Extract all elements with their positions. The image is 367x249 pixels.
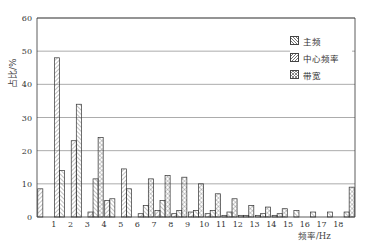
x-tick-label: 8: [168, 220, 173, 229]
bar: [148, 179, 153, 217]
bar: [155, 210, 160, 217]
bar: [177, 210, 182, 217]
y-tick-label: 50: [22, 47, 32, 56]
y-tick-label: 40: [22, 80, 32, 89]
y-tick-label: 30: [22, 114, 32, 123]
bar: [294, 210, 299, 217]
x-tick-label: 11: [216, 220, 226, 229]
bar: [127, 189, 132, 217]
y-axis-label: 占比/%: [6, 58, 19, 88]
x-tick-label: 3: [85, 220, 90, 229]
x-tick-label: 1: [51, 220, 56, 229]
x-tick-label: 13: [249, 220, 259, 229]
bar: [98, 137, 103, 217]
y-tick-label: 10: [22, 180, 32, 189]
x-tick-label: 10: [199, 220, 209, 229]
bar: [327, 212, 332, 217]
x-tick-label: 5: [118, 220, 123, 229]
bar: [199, 184, 204, 217]
bar: [277, 214, 282, 217]
y-tick-label: 20: [22, 147, 32, 156]
y-tick-label: 0: [27, 213, 32, 222]
bar: [88, 212, 93, 217]
bar: [165, 176, 170, 217]
legend-swatch-diag-forward-icon: [290, 36, 299, 45]
legend-label: 带宽: [303, 69, 321, 81]
legend-item-main-freq: 主频: [290, 32, 352, 49]
legend-label: 主频: [303, 35, 321, 47]
bar: [110, 199, 115, 217]
x-tick-label: 2: [68, 220, 73, 229]
x-tick-label: 14: [266, 220, 276, 229]
bar: [38, 189, 43, 217]
legend-label: 中心频率: [303, 52, 339, 64]
bar: [143, 205, 148, 217]
bar: [93, 179, 98, 217]
bar: [344, 212, 349, 217]
x-tick-label: 9: [185, 220, 190, 229]
bar: [232, 199, 237, 217]
bar: [121, 169, 126, 217]
x-tick-label: 17: [316, 220, 326, 229]
x-tick-label: 18: [333, 220, 343, 229]
bar: [138, 214, 143, 217]
bar: [210, 210, 215, 217]
x-axis-label: 频率/Hz: [298, 229, 331, 241]
x-tick-label: 15: [283, 220, 293, 229]
bar: [260, 214, 265, 217]
legend-item-bandwidth: 带宽: [290, 66, 352, 83]
x-tick-label: 16: [300, 220, 310, 229]
bar: [282, 209, 287, 217]
x-tick-label: 4: [101, 220, 106, 229]
bar: [160, 200, 165, 217]
bar: [54, 58, 59, 217]
bar: [71, 141, 76, 217]
bar: [172, 214, 177, 217]
bar: [182, 177, 187, 217]
bar: [215, 194, 220, 217]
x-tick-label: 12: [233, 220, 243, 229]
bar: [193, 210, 198, 217]
bar: [76, 104, 81, 217]
bar: [60, 171, 65, 217]
bar: [188, 212, 193, 217]
legend-swatch-diag-back-icon: [290, 53, 299, 62]
legend: 主频 中心频率 带宽: [290, 32, 352, 83]
bar: [311, 212, 316, 217]
bar: [265, 207, 270, 217]
legend-swatch-cross-hatch-icon: [290, 70, 299, 79]
bar: [205, 214, 210, 217]
y-tick-label: 60: [22, 14, 32, 23]
x-tick-label: 6: [135, 220, 140, 229]
x-tick-label: 7: [152, 220, 157, 229]
bar: [105, 200, 110, 217]
bar: [227, 212, 232, 217]
bar: [249, 205, 254, 217]
legend-item-center-freq: 中心频率: [290, 49, 352, 66]
bar: [349, 187, 354, 217]
